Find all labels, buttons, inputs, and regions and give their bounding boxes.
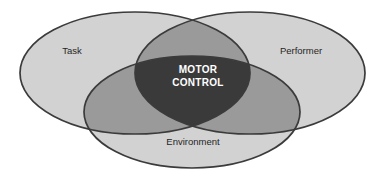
venn-diagram-root: Task Performer Environment MOTOR CONTROL — [0, 0, 384, 180]
label-task: Task — [62, 45, 82, 56]
label-motor-control-line1: MOTOR — [179, 64, 218, 75]
label-performer: Performer — [280, 45, 322, 56]
venn-diagram-svg: Task Performer Environment MOTOR CONTROL — [0, 0, 384, 180]
label-motor-control-line2: CONTROL — [172, 77, 224, 88]
label-environment: Environment — [166, 136, 220, 147]
